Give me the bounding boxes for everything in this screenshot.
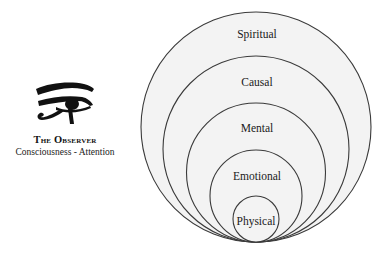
label-spiritual: Spiritual	[237, 28, 277, 41]
label-mental: Mental	[241, 122, 274, 134]
label-emotional: Emotional	[233, 170, 281, 182]
label-causal: Causal	[241, 76, 272, 88]
nested-circles-diagram: Spiritual Causal Mental Emotional Physic…	[0, 0, 385, 256]
label-physical: Physical	[237, 215, 276, 228]
